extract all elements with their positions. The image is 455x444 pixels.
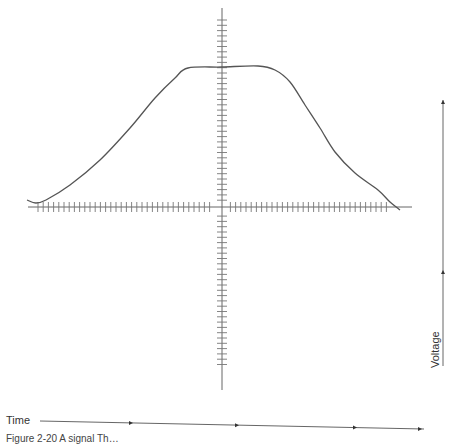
voltage-waveform-curve — [27, 66, 400, 210]
voltage-arrow — [441, 100, 445, 366]
y-axis-label: Voltage — [429, 331, 441, 368]
tick-marks — [38, 20, 386, 365]
figure-caption: Figure 2-20 A signal Th… — [6, 433, 119, 444]
time-arrow — [40, 421, 424, 431]
x-axis-label: Time — [6, 414, 30, 426]
